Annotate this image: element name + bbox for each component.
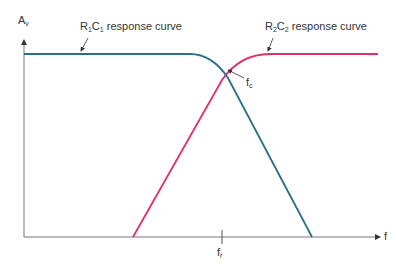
fc-leader	[228, 70, 244, 78]
r2c2-leader	[268, 38, 273, 51]
r2c2-curve	[133, 54, 378, 237]
crossover-label: fc	[246, 76, 253, 89]
r1c1-label: R1C1 response curve	[80, 20, 182, 33]
response-curve-diagram	[0, 0, 396, 272]
resonance-label: fr	[217, 246, 222, 259]
r2c2-label: R2C2 response curve	[265, 20, 367, 33]
r1c1-leader	[81, 38, 88, 51]
r1c1-curve	[24, 54, 312, 237]
x-axis-label: f	[384, 230, 387, 242]
y-axis-label: Av	[18, 14, 29, 27]
